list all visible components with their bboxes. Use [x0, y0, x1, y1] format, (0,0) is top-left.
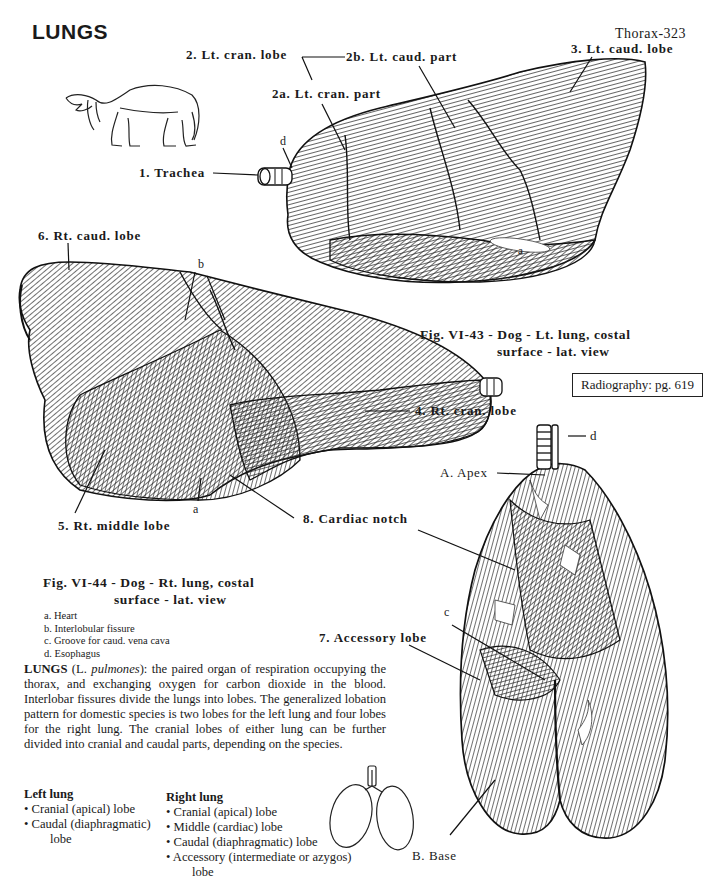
- list-item: • Caudal (diaphragmatic) lobe: [166, 835, 352, 850]
- description-term: LUNGS: [24, 662, 67, 676]
- label-rt-caud-lobe: 6. Rt. caud. lobe: [38, 228, 141, 244]
- label-lt-caud-lobe: 3. Lt. caud. lobe: [571, 41, 673, 57]
- right-lung-heading: Right lung: [166, 790, 352, 805]
- label-trachea: 1. Trachea: [139, 165, 205, 181]
- dog-sketch-icon: [66, 85, 199, 146]
- label-b: b: [198, 257, 204, 272]
- list-item: lobe: [166, 865, 352, 880]
- label-accessory-lobe: 7. Accessory lobe: [319, 630, 427, 646]
- label-d-ventral: d: [590, 428, 597, 444]
- figure-43-caption-line1: Fig. VI-43 - Dog - Lt. lung, costal: [420, 327, 631, 342]
- legend-item: c. Groove for caud. vena cava: [44, 635, 170, 648]
- legend-item: b. Interlobular fissure: [44, 623, 170, 636]
- label-rt-cran-lobe: 4. Rt. cran. lobe: [415, 403, 517, 419]
- figure-44-caption-line1: Fig. VI-44 - Dog - Rt. lung, costal: [43, 575, 254, 590]
- label-apex: A. Apex: [440, 465, 488, 481]
- page-title: LUNGS: [32, 20, 108, 44]
- label-base: B. Base: [412, 848, 457, 864]
- list-item: • Cranial (apical) lobe: [166, 805, 352, 820]
- label-d-fig43: d: [280, 134, 286, 149]
- page-number: Thorax-323: [615, 26, 686, 42]
- description-latin: pulmones: [91, 662, 139, 676]
- radiography-reference-box: Radiography: pg. 619: [572, 373, 703, 397]
- figure-44-caption-line2: surface - lat. view: [43, 591, 254, 608]
- legend-item: d. Esophagus: [44, 648, 170, 661]
- label-lt-cran-lobe: 2. Lt. cran. lobe: [186, 47, 287, 63]
- figure-44-legend: a. Heart b. Interlobular fissure c. Groo…: [44, 610, 170, 660]
- figure-44-caption: Fig. VI-44 - Dog - Rt. lung, costal surf…: [43, 574, 254, 608]
- figure-43-caption: Fig. VI-43 - Dog - Lt. lung, costal surf…: [420, 326, 631, 360]
- list-item: • Cranial (apical) lobe: [24, 802, 151, 817]
- right-lung-illustration: [19, 262, 502, 500]
- label-rt-middle-lobe: 5. Rt. middle lobe: [58, 518, 170, 534]
- label-lt-caud-part: 2b. Lt. caud. part: [346, 49, 457, 65]
- legend-item: a. Heart: [44, 610, 170, 623]
- list-item: lobe: [24, 832, 151, 847]
- label-c: c: [444, 605, 449, 620]
- label-a-fig44: a: [193, 502, 198, 517]
- illustrations: [0, 0, 707, 888]
- left-lung-heading: Left lung: [24, 787, 151, 802]
- label-cardiac-notch: 8. Cardiac notch: [303, 511, 408, 527]
- description-paragraph: LUNGS (L. pulmones): the paired organ of…: [24, 662, 386, 752]
- ventral-lung-illustration: [461, 425, 668, 838]
- right-lung-list: Right lung • Cranial (apical) lobe • Mid…: [166, 790, 352, 880]
- figure-43-caption-line2: surface - lat. view: [420, 343, 631, 360]
- list-item: • Accessory (intermediate or azygos): [166, 850, 352, 865]
- list-item: • Middle (cardiac) lobe: [166, 820, 352, 835]
- label-lt-cran-part: 2a. Lt. cran. part: [272, 86, 381, 102]
- list-item: • Caudal (diaphragmatic): [24, 817, 151, 832]
- description-latin-prefix: (L.: [67, 662, 91, 676]
- left-lung-list: Left lung • Cranial (apical) lobe • Caud…: [24, 787, 151, 847]
- label-a-fig43: a: [518, 244, 523, 256]
